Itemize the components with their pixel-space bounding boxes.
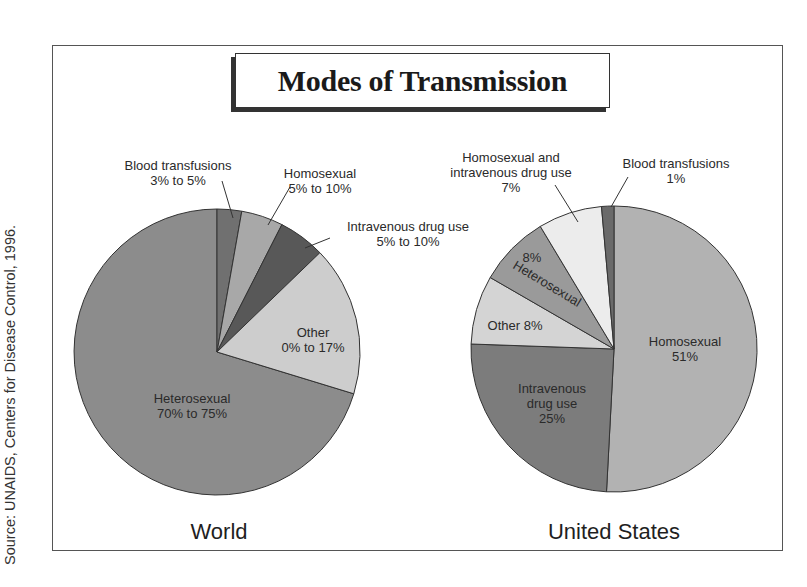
world-label-hetero-name: Heterosexual [154,391,231,406]
us-label-blood-value: 1% [667,171,686,186]
us-label-other: Other 8% [488,318,543,333]
world-label-homo-value: 5% to 10% [289,181,352,196]
us-caption: United States [548,519,680,544]
us-label-iv-line1: Intravenous [518,381,586,396]
us-label-iv-value: 25% [539,411,565,426]
world-label-iv-value: 5% to 10% [377,234,440,249]
world-label-blood-name: Blood transfusions [125,158,232,173]
pie-charts: Blood transfusions 3% to 5% Homosexual 5… [0,0,807,587]
us-label-homo-iv-value: 7% [502,180,521,195]
world-caption: World [190,519,247,544]
world-label-blood-value: 3% to 5% [150,173,206,188]
us-label-homo-name: Homosexual [649,334,721,349]
us-label-iv-line2: drug use [527,396,578,411]
world-label-homo-name: Homosexual [284,166,356,181]
us-label-blood-name: Blood transfusions [623,156,730,171]
us-label-homo-iv-line2: intravenous drug use [450,165,571,180]
us-label-homo-value: 51% [672,349,698,364]
world-label-iv-name: Intravenous drug use [347,219,469,234]
world-label-other-name: Other [297,325,330,340]
world-label-hetero-value: 70% to 75% [157,406,228,421]
us-label-homo-iv-line1: Homosexual and [462,150,560,165]
world-label-other-value: 0% to 17% [282,340,345,355]
